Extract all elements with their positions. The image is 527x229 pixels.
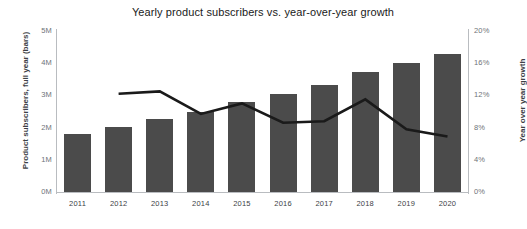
right-tick-label: 20%	[474, 26, 504, 35]
x-axis-label: 2012	[98, 199, 139, 208]
x-axis-label: 2017	[304, 199, 345, 208]
right-tick-label: 4%	[474, 155, 504, 164]
bar	[352, 72, 379, 192]
right-tick-label: 8%	[474, 123, 504, 132]
bar	[311, 85, 338, 192]
x-axis-label: 2013	[139, 199, 180, 208]
bar	[146, 119, 173, 192]
left-axis-title: Product subscribers, full year (bars)	[21, 31, 30, 171]
right-tick-label: 0%	[474, 187, 504, 196]
right-tick-label: 12%	[474, 90, 504, 99]
right-axis-title: Year over year growth	[518, 31, 527, 171]
x-axis-line	[56, 192, 469, 193]
bar	[105, 127, 132, 192]
right-tick-label: 16%	[474, 58, 504, 67]
x-axis-label: 2011	[57, 199, 98, 208]
bar	[64, 134, 91, 192]
plot-area	[57, 31, 468, 192]
bar	[393, 63, 420, 192]
bar	[270, 94, 297, 192]
x-axis-label: 2020	[427, 199, 468, 208]
chart-title: Yearly product subscribers vs. year-over…	[0, 6, 526, 18]
bar	[228, 102, 255, 192]
x-axis-label: 2014	[180, 199, 221, 208]
x-axis-label: 2016	[263, 199, 304, 208]
left-tick-label: 1M	[16, 155, 52, 164]
bar	[187, 112, 214, 193]
x-axis-label: 2015	[221, 199, 262, 208]
right-axis-line	[468, 29, 469, 194]
left-tick-label: 4M	[16, 58, 52, 67]
bar	[434, 54, 461, 192]
left-tick-label: 2M	[16, 123, 52, 132]
left-tick-label: 5M	[16, 26, 52, 35]
left-tick-label: 0M	[16, 187, 52, 196]
left-tick-label: 3M	[16, 90, 52, 99]
x-axis-label: 2019	[386, 199, 427, 208]
x-axis-label: 2018	[345, 199, 386, 208]
